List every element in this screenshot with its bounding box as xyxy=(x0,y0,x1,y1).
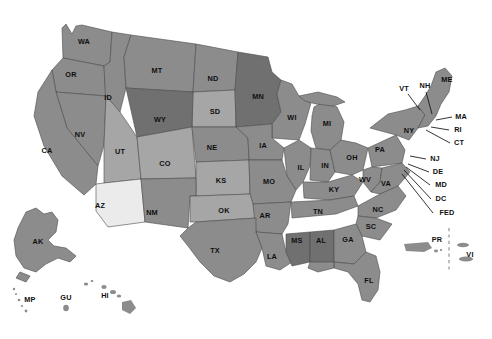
state-label-nd: ND xyxy=(208,75,219,82)
state-label-ri: RI xyxy=(454,126,462,133)
state-label-nh: NH xyxy=(420,82,431,89)
state-shape-ne[interactable] xyxy=(192,127,249,162)
state-label-dc: DC xyxy=(436,195,447,202)
state-label-tn: TN xyxy=(313,208,323,215)
state-label-id: ID xyxy=(104,94,112,101)
state-label-al: AL xyxy=(316,237,326,244)
state-label-sd: SD xyxy=(210,108,221,115)
state-shape-nd[interactable] xyxy=(193,44,238,92)
state-shape-ny[interactable] xyxy=(370,106,425,140)
state-label-ks: KS xyxy=(216,177,227,184)
state-label-ut: UT xyxy=(115,148,125,155)
state-label-mi: MI xyxy=(323,120,332,127)
state-label-mn: MN xyxy=(252,93,264,100)
state-label-ky: KY xyxy=(329,186,340,193)
state-label-me: ME xyxy=(441,76,452,83)
state-label-az: AZ xyxy=(95,202,105,209)
state-shape-tx[interactable] xyxy=(180,218,262,282)
state-label-nc: NC xyxy=(373,206,384,213)
state-label-oh: OH xyxy=(346,154,357,161)
territory-label-gu: GU xyxy=(60,294,71,301)
state-label-mo: MO xyxy=(263,178,275,185)
leader-line-ri xyxy=(431,127,449,130)
state-shape-ak-aleutian[interactable] xyxy=(16,272,30,282)
leader-line-fed xyxy=(402,174,433,213)
state-label-ne: NE xyxy=(207,144,218,151)
map-graphic[interactable] xyxy=(0,0,492,339)
state-label-nj: NJ xyxy=(430,155,440,162)
state-shape-ak[interactable] xyxy=(14,208,76,272)
state-label-wi: WI xyxy=(287,114,296,121)
state-label-il: IL xyxy=(298,164,305,171)
state-label-fl: FL xyxy=(364,277,373,284)
state-label-wa: WA xyxy=(78,38,90,45)
territory-shape-gu[interactable] xyxy=(63,305,69,311)
state-label-wv: WV xyxy=(359,176,371,183)
state-label-ma: MA xyxy=(455,113,467,120)
state-shape-pa[interactable] xyxy=(368,135,405,167)
state-label-hi: HI xyxy=(101,292,109,299)
state-label-va: VA xyxy=(381,180,391,187)
mainland-states[interactable] xyxy=(13,24,473,314)
state-label-tx: TX xyxy=(210,247,220,254)
state-label-ga: GA xyxy=(342,236,353,243)
state-shape-fl-panhandle[interactable] xyxy=(308,262,334,272)
leader-line-nj xyxy=(410,156,426,159)
state-shape-nm[interactable] xyxy=(141,178,196,228)
territory-label-pr: PR xyxy=(432,236,443,243)
state-label-ms: MS xyxy=(291,237,302,244)
state-label-sc: SC xyxy=(366,223,377,230)
state-shape-mn[interactable] xyxy=(235,52,281,127)
state-label-co: CO xyxy=(159,160,170,167)
state-label-de: DE xyxy=(433,168,444,175)
territory-label-vi: VI xyxy=(466,251,473,258)
state-label-nv: NV xyxy=(75,131,86,138)
us-states-map[interactable]: WA OR ID MT ND SD MN WI MI WY NV CA UT C… xyxy=(0,0,492,339)
state-label-ak: AK xyxy=(33,238,44,245)
state-label-vt: VT xyxy=(399,85,409,92)
leader-line-ma xyxy=(436,117,452,120)
state-label-ny: NY xyxy=(404,127,415,134)
state-label-ia: IA xyxy=(259,142,267,149)
state-shape-hi[interactable] xyxy=(84,280,136,314)
state-label-ar: AR xyxy=(260,212,271,219)
territory-label-mp: MP xyxy=(24,296,35,303)
state-label-ct: CT xyxy=(454,139,464,146)
state-label-md: MD xyxy=(435,181,447,188)
leader-line-dc xyxy=(404,170,431,199)
state-label-wy: WY xyxy=(154,116,166,123)
state-label-pa: PA xyxy=(375,146,385,153)
state-label-fed: FED xyxy=(439,209,454,216)
state-label-or: OR xyxy=(65,71,76,78)
state-shape-mt[interactable] xyxy=(124,35,196,92)
state-label-ok: OK xyxy=(218,207,229,214)
state-label-la: LA xyxy=(267,253,277,260)
state-label-mt: MT xyxy=(152,67,163,74)
state-label-in: IN xyxy=(321,162,329,169)
leader-line-ct xyxy=(426,130,450,143)
state-label-ca: CA xyxy=(42,147,53,154)
state-label-nm: NM xyxy=(146,209,158,216)
